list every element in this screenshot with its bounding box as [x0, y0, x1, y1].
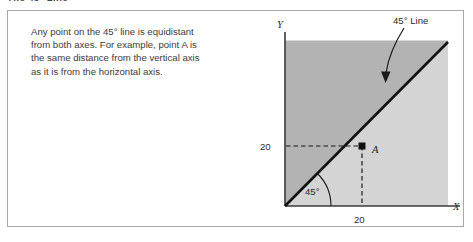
y-axis-label: Y — [277, 19, 284, 30]
cropped-page-title-text: The 45° Line — [7, 0, 68, 3]
cropped-page-title: The 45° Line — [0, 0, 473, 7]
chart-svg: Y X 20 20 A 45° Line 45° — [248, 11, 465, 228]
angle-label: 45° — [305, 186, 320, 197]
caption-line-text: Any point on the 45° line is equidistant — [31, 26, 194, 37]
caption-line: as it is from the horizontal axis. — [31, 65, 246, 78]
caption-line-text: as it is from the horizontal axis. — [31, 66, 163, 77]
forty-five-degree-line-chart: Y X 20 20 A 45° Line 45° — [248, 11, 465, 228]
caption-line-text: from both axes. For example, point A is — [31, 39, 197, 50]
point-a-label: A — [371, 144, 379, 155]
caption-line-text: the same distance from the vertical axis — [31, 52, 200, 63]
angle-label-text: 45° — [305, 186, 320, 197]
caption-line: Any point on the 45° line is equidistant — [31, 25, 246, 38]
caption-line: from both axes. For example, point A is — [31, 38, 246, 51]
line-callout-label: 45° Line — [393, 15, 428, 26]
x-tick-label-20: 20 — [354, 214, 365, 225]
x-axis-label: X — [452, 201, 460, 212]
figure-frame: Any point on the 45° line is equidistant… — [7, 10, 464, 227]
point-a-marker — [359, 143, 366, 150]
caption-line: the same distance from the vertical axis — [31, 51, 246, 64]
caption-block: Any point on the 45° line is equidistant… — [31, 25, 246, 78]
line-callout-label-text: 45° Line — [393, 15, 428, 26]
y-tick-label-20: 20 — [260, 141, 271, 152]
